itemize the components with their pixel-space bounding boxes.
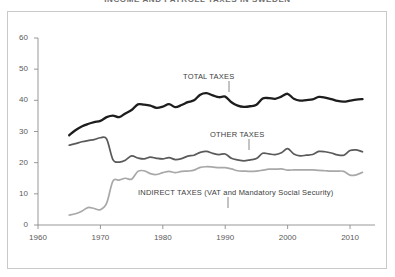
y-tick-30: 30 [6, 127, 28, 136]
y-tick-50: 50 [6, 64, 28, 73]
y-tick-60: 60 [6, 33, 28, 42]
series-line-other-taxes [69, 137, 362, 162]
y-tick-10: 10 [6, 189, 28, 198]
y-tick-40: 40 [6, 95, 28, 104]
x-tick-2010: 2010 [330, 233, 370, 242]
series-line-total-taxes [69, 93, 362, 135]
x-tick-1990: 1990 [205, 233, 245, 242]
series-label-total-taxes: TOTAL TAXES [183, 72, 234, 81]
x-tick-1960: 1960 [18, 233, 58, 242]
x-tick-1970: 1970 [80, 233, 120, 242]
y-tick-0: 0 [6, 220, 28, 229]
y-tick-20: 20 [6, 158, 28, 167]
x-tick-2000: 2000 [268, 233, 308, 242]
series-label-other-taxes: OTHER TAXES [210, 130, 264, 139]
series-label-indirect-taxes: INDIRECT TAXES (VAT and Mandatory Social… [138, 188, 333, 197]
x-tick-1980: 1980 [143, 233, 183, 242]
chart-figure: INCOME AND PAYROLL TAXES IN SWEDEN 01020… [0, 0, 395, 277]
